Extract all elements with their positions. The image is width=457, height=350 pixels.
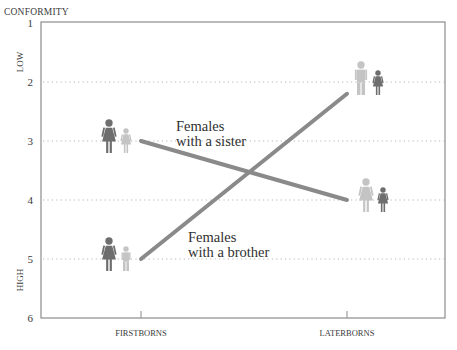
male-figure-icon — [355, 61, 367, 95]
series-lines — [141, 94, 347, 259]
series-label-line2: with a brother — [188, 244, 270, 260]
female-figure-icon — [120, 128, 131, 153]
female-figure-icon — [372, 70, 383, 95]
y-tick-label: 3 — [28, 135, 34, 147]
female-figure-icon — [377, 187, 388, 212]
series-annotations: Femaleswith a sisterFemaleswith a brothe… — [176, 118, 270, 260]
y-tick-label: 1 — [28, 17, 34, 29]
conformity-chart: CONFORMITY LOW HIGH 123456 FIRSTBORNSLAT… — [0, 0, 457, 350]
series-label-line1: Females — [176, 118, 225, 134]
y-tick-label: 4 — [28, 194, 34, 206]
series-label-line2: with a sister — [176, 133, 246, 149]
y-axis-high-label: HIGH — [15, 268, 25, 291]
series-label-line1: Females — [188, 229, 237, 245]
female-figure-icon — [101, 237, 116, 271]
y-tick-label: 2 — [28, 76, 34, 88]
x-tick-label: FIRSTBORNS — [115, 328, 167, 338]
sister-series-line — [141, 141, 347, 200]
y-axis-low-label: LOW — [15, 51, 25, 72]
y-tick-labels: 123456 — [28, 17, 34, 324]
brother-series-line — [141, 94, 347, 259]
y-tick-label: 6 — [28, 312, 34, 324]
female-figure-icon — [358, 178, 373, 212]
y-axis-title: CONFORMITY — [4, 7, 69, 17]
x-tick-label: LATERBORNS — [320, 328, 375, 338]
x-tick-labels: FIRSTBORNSLATERBORNS — [115, 311, 374, 338]
male-figure-icon — [121, 246, 130, 271]
female-figure-icon — [101, 119, 116, 153]
y-tick-label: 5 — [28, 253, 34, 265]
